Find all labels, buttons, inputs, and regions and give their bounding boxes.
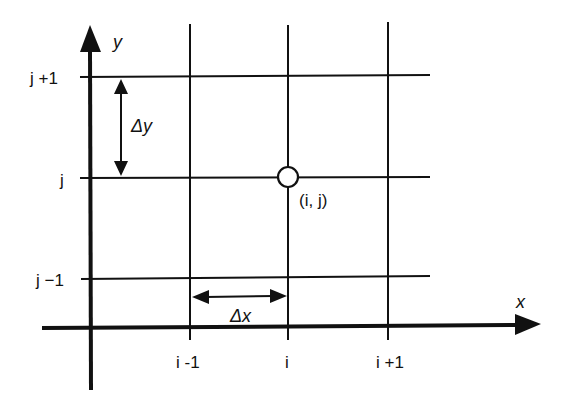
row-label-j-plus-1: j +1 (29, 69, 58, 88)
column-label-i-plus-1: i +1 (376, 353, 404, 372)
grid-line-j (80, 177, 430, 178)
y-axis-arrowhead-icon (80, 25, 101, 52)
grid-diagram: y x j +1 j j −1 i -1 i i +1 (i, j) Δy Δx (0, 0, 569, 400)
arrowhead-left-icon (192, 290, 209, 304)
node-circle (278, 167, 298, 187)
grid-line-j-plus-1 (80, 75, 430, 77)
x-axis (42, 314, 541, 335)
horizontal-grid-lines (80, 75, 430, 279)
x-axis-label: x (515, 292, 526, 312)
grid-line-j-minus-1 (81, 276, 430, 279)
x-axis-arrowhead-icon (515, 314, 541, 335)
column-label-i: i (285, 353, 289, 372)
row-label-j-minus-1: j −1 (35, 271, 64, 290)
delta-y-label: Δy (130, 116, 153, 136)
arrowhead-up-icon (114, 79, 128, 94)
delta-x-arrow (192, 289, 287, 304)
row-label-j: j (59, 171, 64, 190)
delta-y-arrow (114, 79, 128, 176)
node-label: (i, j) (299, 191, 327, 210)
arrowhead-down-icon (114, 161, 128, 176)
y-axis-label: y (111, 32, 123, 52)
column-label-i-minus-1: i -1 (176, 353, 200, 372)
y-axis (80, 25, 101, 390)
delta-x-label: Δx (229, 306, 252, 326)
arrowhead-right-icon (270, 289, 287, 303)
